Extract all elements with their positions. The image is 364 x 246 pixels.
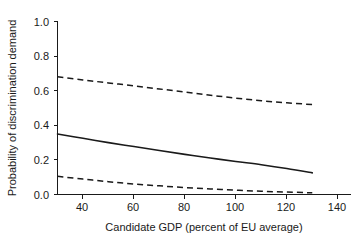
y-tick-label-0-0: 0.0: [34, 189, 49, 201]
y-tick-label-1-0: 1.0: [34, 16, 49, 28]
y-tick-label-0-4: 0.4: [34, 119, 49, 131]
x-axis-title: Candidate GDP (percent of EU average): [105, 221, 302, 233]
y-tick-label-0-6: 0.6: [34, 85, 49, 97]
x-tick-label-100: 100: [226, 201, 244, 213]
chart-figure: 1.0 0.8 0.6 0.4 0.2 0.0 40 60 80 100 120…: [0, 0, 364, 246]
x-tick-label-120: 120: [277, 201, 295, 213]
line-chart: 1.0 0.8 0.6 0.4 0.2 0.0 40 60 80 100 120…: [0, 0, 364, 246]
x-tick-label-40: 40: [76, 201, 88, 213]
y-tick-label-0-8: 0.8: [34, 50, 49, 62]
y-tick-label-0-2: 0.2: [34, 154, 49, 166]
y-axis-title: Probability of discrimination demand: [6, 20, 18, 197]
x-tick-label-60: 60: [127, 201, 139, 213]
x-tick-label-140: 140: [328, 201, 346, 213]
x-tick-label-80: 80: [178, 201, 190, 213]
